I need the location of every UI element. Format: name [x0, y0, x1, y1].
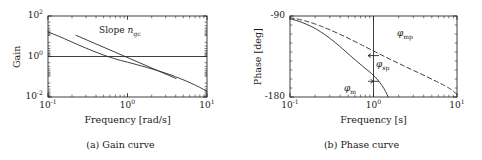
panel-caption-a: (a) Gain curve	[0, 140, 241, 150]
x-axis-title: Frequency [rad/s]	[48, 115, 207, 125]
panel-caption-b: (b) Phase curve	[241, 140, 482, 150]
x-tick-label-1e0: 100	[354, 101, 394, 110]
y-tick-exp-1em2: -2	[37, 89, 43, 96]
x-tick-exp-1e1: 1	[211, 98, 215, 105]
x-tick-label-1e1: 101	[437, 101, 477, 110]
phi-sp-subscript: sp	[382, 64, 389, 71]
x-tick-label-1em1: 10-1	[28, 101, 68, 110]
x-tick-exp-1e0: 0	[131, 98, 135, 105]
x-tick-label-1e0: 100	[108, 101, 148, 110]
y-tick-label-1e2: 102	[10, 11, 43, 20]
y-tick-label-1em2: 10-2	[10, 92, 43, 101]
phi-mp-subscript: mp	[403, 33, 413, 40]
y-tick-label-minus180: -180	[245, 92, 285, 101]
x-tick-exp-1e1: 1	[461, 98, 465, 105]
phi-m-subscript: m	[350, 88, 356, 95]
phi-mp-annotation: φmp	[397, 29, 413, 38]
phi-sp-annotation: φsp	[376, 60, 389, 69]
y-axis-title: Gain	[12, 32, 22, 82]
x-axis-title: Frequency [s]	[290, 115, 457, 125]
x-tick-label-1e1: 101	[187, 101, 227, 110]
gain-curve-plot	[0, 0, 241, 160]
y-axis-title: Phase [deg]	[253, 21, 263, 93]
slope-annotation-text: Slope	[99, 25, 125, 35]
x-tick-exp-1em1: -1	[51, 98, 57, 105]
figure-two-panel-bode: 102 100 10-2 Gain 10-1 100 101 Frequency…	[0, 0, 482, 160]
x-tick-label-1em1: 10-1	[270, 101, 310, 110]
y-tick-label-minus90: -90	[245, 11, 285, 20]
phi-m-annotation: φm	[344, 84, 356, 93]
x-tick-exp-1e0: 0	[377, 98, 381, 105]
panel-phase-curve: -90 -180 Phase [deg] 10-1 100 101 Freque…	[241, 0, 482, 160]
gain-magnitude-curve	[48, 32, 207, 91]
panel-gain-curve: 102 100 10-2 Gain 10-1 100 101 Frequency…	[0, 0, 241, 160]
y-tick-exp-1e2: 2	[39, 8, 43, 15]
y-tick-exp-1e0: 0	[39, 49, 43, 56]
phase-curve-plot	[241, 0, 482, 160]
slope-annotation-sub: gc	[133, 30, 140, 37]
x-tick-exp-1em1: -1	[293, 98, 299, 105]
slope-annotation: Slope ngc	[99, 26, 141, 35]
